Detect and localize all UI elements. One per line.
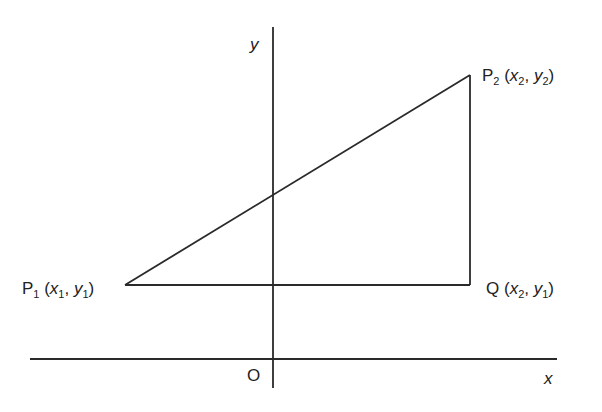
y-axis-label: y: [249, 35, 260, 54]
point-p2-label: P2 (x2, y2): [482, 66, 554, 87]
point-p1-label: P1 (x1, y1): [22, 279, 94, 300]
origin-label: O: [247, 366, 260, 385]
point-q-label: Q (x2, y1): [486, 279, 554, 300]
hypotenuse-p1-p2: [125, 75, 470, 285]
coordinate-diagram: y x O P1 (x1, y1) P2 (x2, y2) Q (x2, y1): [0, 0, 602, 412]
x-axis-label: x: [543, 369, 553, 388]
